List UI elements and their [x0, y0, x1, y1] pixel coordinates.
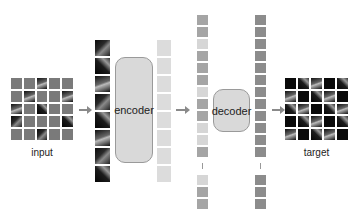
- visible-patch-token: [95, 112, 110, 128]
- decoder-input-token: [197, 111, 208, 121]
- masked-patch: [37, 116, 48, 127]
- target-label: target: [285, 147, 348, 158]
- encoded-token: [157, 40, 171, 56]
- visible-patch: [37, 129, 48, 140]
- encoded-token: [157, 166, 171, 182]
- visible-patch: [11, 104, 22, 115]
- decoder-output-token: [255, 99, 266, 109]
- visible-patches-column: [95, 40, 110, 182]
- masked-patch: [49, 116, 60, 127]
- target-patch: [337, 129, 348, 140]
- masked-patch: [62, 78, 73, 89]
- decoder-input-token: [197, 135, 208, 145]
- target-patch: [298, 78, 309, 89]
- visible-patch: [24, 91, 35, 102]
- decoder-output-token: [255, 199, 266, 209]
- masked-patch: [49, 129, 60, 140]
- target-patch: [311, 104, 322, 115]
- masked-patch: [62, 104, 73, 115]
- arrow-input-to-patches: [79, 109, 88, 111]
- target-patch: [324, 104, 335, 115]
- decoder-input-token: [197, 199, 208, 209]
- decoder-block: decoder: [213, 89, 250, 132]
- decoder-output-token: [255, 123, 266, 133]
- target-patch: [311, 129, 322, 140]
- decoder-input-token: [197, 51, 208, 61]
- arrow-decoder-to-target: [272, 109, 281, 111]
- masked-patch: [49, 91, 60, 102]
- target-image-grid: [285, 78, 348, 140]
- encoded-token: [157, 112, 171, 128]
- decoder-output-token: [255, 39, 266, 49]
- masked-patch: [11, 78, 22, 89]
- masked-patch: [24, 129, 35, 140]
- decoder-input-tokens-column: [197, 15, 208, 209]
- target-patch: [285, 91, 296, 102]
- decoder-output-token: [255, 15, 266, 25]
- target-patch: [324, 78, 335, 89]
- visible-patch: [37, 78, 48, 89]
- encoded-token: [157, 58, 171, 74]
- target-patch: [285, 129, 296, 140]
- decoder-input-token: [197, 87, 208, 97]
- visible-patch-token: [95, 76, 110, 92]
- decoder-output-token: [255, 111, 266, 121]
- decoder-input-token: [197, 187, 208, 197]
- target-patch: [337, 116, 348, 127]
- decoder-output-tokens-column: [255, 15, 266, 209]
- decoder-output-token: [255, 187, 266, 197]
- decoder-label: decoder: [212, 105, 252, 117]
- visible-patch-token: [95, 166, 110, 182]
- target-patch: [324, 91, 335, 102]
- decoder-output-token: [255, 51, 266, 61]
- encoded-token: [157, 148, 171, 164]
- decoder-output-token: [255, 147, 266, 157]
- decoder-input-token: [197, 123, 208, 133]
- masked-patch: [24, 104, 35, 115]
- decoder-output-token: [255, 63, 266, 73]
- masked-patch: [24, 116, 35, 127]
- decoder-output-token: [255, 87, 266, 97]
- ellipsis-mark: [260, 163, 261, 169]
- ellipsis: [197, 159, 208, 173]
- visible-patch-token: [95, 94, 110, 110]
- decoder-input-token: [197, 147, 208, 157]
- encoder-label: encoder: [114, 104, 154, 116]
- decoder-input-token: [197, 63, 208, 73]
- masked-patch: [49, 78, 60, 89]
- target-patch: [324, 116, 335, 127]
- masked-patch: [24, 78, 35, 89]
- decoder-input-token: [197, 39, 208, 49]
- decoder-output-token: [255, 27, 266, 37]
- target-patch: [311, 91, 322, 102]
- masked-patch: [62, 129, 73, 140]
- target-patch: [298, 104, 309, 115]
- visible-patch-token: [95, 40, 110, 56]
- decoder-input-token: [197, 27, 208, 37]
- target-patch: [298, 129, 309, 140]
- visible-patch: [37, 104, 48, 115]
- input-label: input: [11, 147, 73, 158]
- decoder-input-token: [197, 175, 208, 185]
- target-patch: [337, 104, 348, 115]
- ellipsis-mark: [202, 163, 203, 169]
- masked-patch: [11, 129, 22, 140]
- masked-patch: [37, 91, 48, 102]
- masked-patch: [11, 91, 22, 102]
- arrow-encoder-to-decoder-input: [176, 109, 186, 111]
- target-patch: [337, 91, 348, 102]
- ellipsis: [255, 159, 266, 173]
- decoder-output-token: [255, 175, 266, 185]
- encoded-token: [157, 76, 171, 92]
- input-image-grid: [11, 78, 73, 140]
- visible-patch: [62, 91, 73, 102]
- target-patch: [285, 104, 296, 115]
- decoder-input-token: [197, 15, 208, 25]
- decoder-output-token: [255, 75, 266, 85]
- visible-patch-token: [95, 58, 110, 74]
- target-patch: [324, 129, 335, 140]
- visible-patch: [11, 116, 22, 127]
- visible-patch: [62, 116, 73, 127]
- decoder-input-token: [197, 99, 208, 109]
- encoded-token: [157, 94, 171, 110]
